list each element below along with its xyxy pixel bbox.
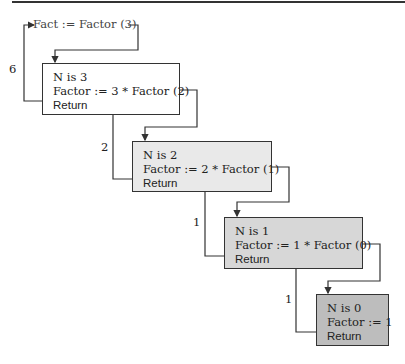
frame-n-line: N is 3 <box>53 70 179 84</box>
initial-call: Fact := Factor (3) <box>33 17 136 31</box>
frame-n-line: N is 2 <box>143 148 271 162</box>
frame-n-line: N is 1 <box>235 224 362 238</box>
frame-n2: N is 2 Factor := 2 * Factor (1) Return <box>132 141 272 192</box>
frame-n0: N is 0 Factor := 1 Return <box>316 294 389 346</box>
frame-return-line: Return <box>53 98 179 112</box>
frame-factor-line: Factor := 1 <box>327 315 388 329</box>
return-value-label: 2 <box>101 140 108 154</box>
frame-n-line: N is 0 <box>327 301 388 315</box>
frame-factor-line: Factor := 3 * Factor (2) <box>53 84 179 98</box>
return-value-label: 1 <box>285 292 292 306</box>
frame-return-line: Return <box>327 329 388 343</box>
frame-factor-line: Factor := 1 * Factor (0) <box>235 238 362 252</box>
return-value-label: 1 <box>193 215 200 229</box>
frame-return-line: Return <box>143 176 271 190</box>
frame-n1: N is 1 Factor := 1 * Factor (0) Return <box>224 217 363 269</box>
frame-n3: N is 3 Factor := 3 * Factor (2) Return <box>42 63 180 115</box>
return-value-label: 6 <box>9 62 16 76</box>
frame-factor-line: Factor := 2 * Factor (1) <box>143 162 271 176</box>
frame-return-line: Return <box>235 252 362 266</box>
